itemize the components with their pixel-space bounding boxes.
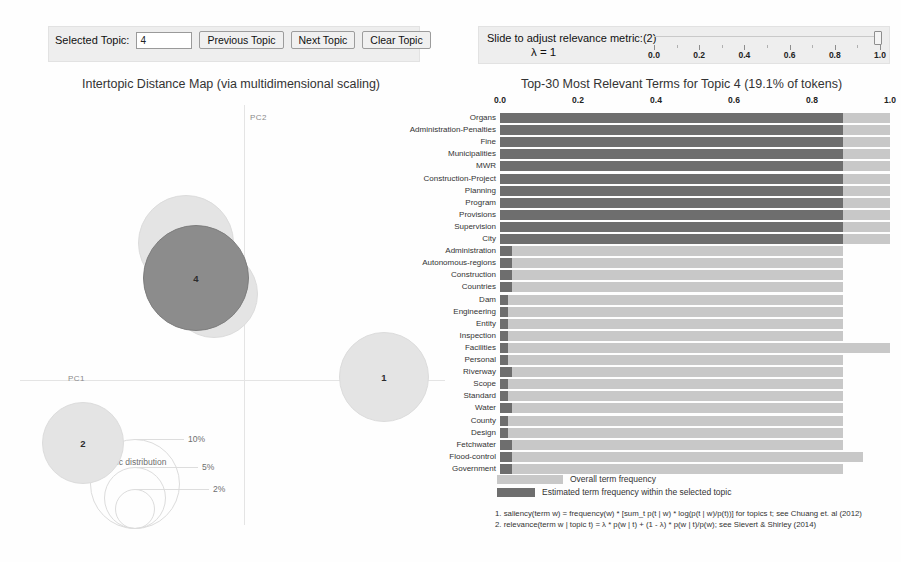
- barchart-legend: Overall term frequency Estimated term fr…: [497, 474, 897, 500]
- barchart-row[interactable]: Planning: [500, 186, 890, 196]
- barchart-x-tick-label: 0.0: [494, 95, 506, 105]
- barchart-row[interactable]: Design: [500, 428, 890, 438]
- barchart-row[interactable]: Fine: [500, 137, 890, 147]
- barchart-row[interactable]: Construction-Project: [500, 174, 890, 184]
- barchart-row[interactable]: Construction: [500, 270, 890, 280]
- slider-tick: [857, 45, 858, 48]
- barchart-row[interactable]: Water: [500, 403, 890, 413]
- barchart-row[interactable]: Administration: [500, 246, 890, 256]
- barchart-row[interactable]: MWR: [500, 161, 890, 171]
- bar-overall-frequency: [500, 416, 843, 426]
- barchart-term-label: Provisions: [459, 209, 496, 220]
- slider-tick: [677, 45, 678, 48]
- bar-estimated-frequency: [500, 343, 508, 353]
- barchart-row[interactable]: Personal: [500, 355, 890, 365]
- bar-overall-frequency: [500, 307, 843, 317]
- barchart-row[interactable]: Riverway: [500, 367, 890, 377]
- lambda-value: λ = 1: [531, 46, 556, 58]
- barchart-row[interactable]: Dam: [500, 295, 890, 305]
- barchart-row[interactable]: Administration-Penalties: [500, 125, 890, 135]
- barchart-term-label: Government: [452, 463, 496, 474]
- slider-tick-label: 0.2: [693, 50, 705, 60]
- barchart-x-tick-label: 1.0: [884, 95, 896, 105]
- bar-estimated-frequency: [500, 331, 508, 341]
- intertopic-map-title: Intertopic Distance Map (via multidimens…: [0, 77, 462, 91]
- barchart-row[interactable]: Inspection: [500, 331, 890, 341]
- barchart-row[interactable]: Supervision: [500, 222, 890, 232]
- barchart-term-label: Supervision: [454, 221, 496, 232]
- clear-topic-button[interactable]: Clear Topic: [362, 31, 430, 49]
- barchart-title: Top-30 Most Relevant Terms for Topic 4 (…: [462, 77, 901, 91]
- topic-bubble-number: 4: [193, 273, 198, 284]
- slider-handle[interactable]: [874, 31, 882, 45]
- barchart-row[interactable]: Fetchwater: [500, 440, 890, 450]
- slider-tick: [767, 45, 768, 48]
- bar-overall-frequency: [500, 246, 843, 256]
- bar-overall-frequency: [500, 452, 863, 462]
- barchart-term-label: Construction: [451, 269, 496, 280]
- topic-bubble-2[interactable]: 2: [42, 402, 124, 484]
- bar-estimated-frequency: [500, 234, 843, 244]
- barchart-term-label: City: [482, 233, 496, 244]
- footnote-saliency: 1. saliency(term w) = frequency(w) * [su…: [495, 508, 897, 519]
- marginal-legend-label: 2%: [213, 484, 225, 494]
- bar-estimated-frequency: [500, 307, 508, 317]
- bar-estimated-frequency: [500, 125, 843, 135]
- previous-topic-button[interactable]: Previous Topic: [199, 31, 283, 49]
- legend-swatch-overall-icon: [497, 475, 563, 484]
- barchart-term-label: County: [471, 415, 496, 426]
- barchart-row[interactable]: City: [500, 234, 890, 244]
- barchart-row[interactable]: Facilities: [500, 343, 890, 353]
- barchart-row[interactable]: County: [500, 416, 890, 426]
- bar-overall-frequency: [500, 403, 843, 413]
- bar-overall-frequency: [500, 319, 843, 329]
- slider-tick: [812, 45, 813, 48]
- barchart-row[interactable]: Scope: [500, 379, 890, 389]
- bar-estimated-frequency: [500, 367, 512, 377]
- barchart-row[interactable]: Municipalities: [500, 149, 890, 159]
- relevance-metric-panel: Slide to adjust relevance metric:(2) λ =…: [478, 26, 890, 64]
- slider-tick-label: 0.4: [738, 50, 750, 60]
- barchart-term-label: Municipalities: [448, 148, 496, 159]
- legend-label-estimated: Estimated term frequency within the sele…: [542, 487, 731, 497]
- barchart-term-label: Construction-Project: [424, 173, 496, 184]
- barchart-term-label: Inspection: [460, 330, 496, 341]
- bar-estimated-frequency: [500, 210, 843, 220]
- barchart-term-label: Fine: [480, 136, 496, 147]
- next-topic-button[interactable]: Next Topic: [291, 31, 356, 49]
- topic-bubble-1[interactable]: 1: [339, 332, 429, 422]
- bar-estimated-frequency: [500, 137, 843, 147]
- bar-estimated-frequency: [500, 295, 508, 305]
- barchart-x-tick-label: 0.4: [650, 95, 662, 105]
- footnotes: 1. saliency(term w) = frequency(w) * [su…: [495, 508, 897, 530]
- barchart-term-label: Administration: [445, 245, 496, 256]
- bar-overall-frequency: [500, 270, 843, 280]
- selected-topic-input[interactable]: [136, 32, 192, 49]
- bar-estimated-frequency: [500, 149, 843, 159]
- barchart-term-label: Design: [471, 427, 496, 438]
- bar-estimated-frequency: [500, 403, 512, 413]
- bar-estimated-frequency: [500, 174, 843, 184]
- topic-bubble-4[interactable]: 4: [143, 225, 249, 331]
- topic-bubble-number: 1: [381, 372, 386, 383]
- barchart-row[interactable]: Flood-control: [500, 452, 890, 462]
- barchart-row[interactable]: Countries: [500, 282, 890, 292]
- barchart-row[interactable]: Standard: [500, 391, 890, 401]
- barchart-term-label: Organs: [470, 112, 496, 123]
- barchart-row[interactable]: Entity: [500, 319, 890, 329]
- barchart-x-axis: 0.00.20.40.60.81.0: [462, 95, 901, 109]
- intertopic-distance-map[interactable]: PC1 PC2 35412 2%5%10% Marginal topic dis…: [0, 95, 462, 545]
- barchart-term-label: Countries: [462, 281, 496, 292]
- barchart-row[interactable]: Autonomous-regions: [500, 258, 890, 268]
- slider-tick-label: 0.8: [829, 50, 841, 60]
- barchart-term-label: Personal: [464, 354, 496, 365]
- map-axis-label-pc1: PC1: [68, 374, 85, 383]
- slider-track[interactable]: [654, 36, 880, 37]
- lambda-slider[interactable]: 0.00.20.40.60.81.0: [654, 31, 882, 61]
- barchart-row[interactable]: Government: [500, 464, 890, 474]
- barchart-row[interactable]: Organs: [500, 113, 890, 123]
- barchart-term-label: Program: [465, 197, 496, 208]
- barchart-row[interactable]: Engineering: [500, 307, 890, 317]
- barchart-row[interactable]: Provisions: [500, 210, 890, 220]
- barchart-row[interactable]: Program: [500, 198, 890, 208]
